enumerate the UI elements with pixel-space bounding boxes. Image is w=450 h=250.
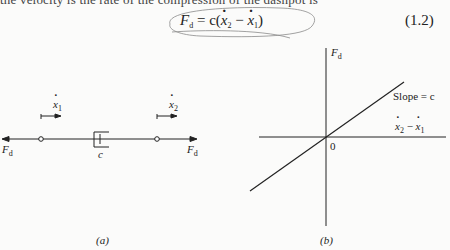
velocity-2-label: x2 bbox=[169, 98, 178, 113]
velocity-1-label: x1 bbox=[53, 98, 62, 113]
caption-b: (b) bbox=[320, 234, 333, 246]
force-right-label: Fd bbox=[187, 143, 198, 158]
y-axis-label: Fd bbox=[331, 46, 342, 61]
figure-drawings bbox=[0, 0, 450, 250]
damper-c-label: c bbox=[98, 148, 103, 160]
origin-label: 0 bbox=[330, 140, 336, 152]
force-velocity-graph bbox=[250, 48, 446, 226]
hand-drawn-circle bbox=[170, 8, 315, 38]
caption-a: (a) bbox=[96, 234, 109, 246]
force-left-label: Fd bbox=[2, 143, 13, 158]
damper-diagram bbox=[2, 114, 197, 147]
x-axis-label: x2 − x1 bbox=[395, 120, 425, 135]
slope-label: Slope = c bbox=[393, 90, 435, 102]
